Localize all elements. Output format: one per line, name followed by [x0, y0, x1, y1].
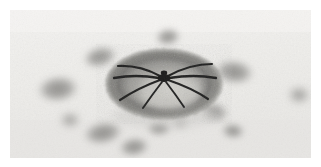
illustration-canvas	[0, 0, 321, 167]
figure-root: A dark spider-like form with eight radia…	[0, 0, 321, 167]
overlay-grain	[10, 10, 311, 158]
